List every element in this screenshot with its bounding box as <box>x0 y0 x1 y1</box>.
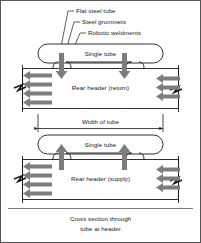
width-of-tube-label: Width of tube <box>38 119 163 125</box>
callout-label-flat-steel-tube: Flat steel tube <box>76 8 116 14</box>
figure-caption-line2: tube at header <box>0 226 201 232</box>
callout-label-robotic-weldments: Robotic weldments <box>88 30 141 36</box>
upper-tube-label: Single tube <box>38 51 163 57</box>
callout-label-steel-grommets: Steel grommets <box>82 19 126 25</box>
figure-cross-section-through-tube-at-header: Flat steel tube Steel grommets Robotic w… <box>0 0 201 243</box>
lower-header-label: Rear header (supply) <box>22 176 179 182</box>
lower-tube-label: Single tube <box>38 142 163 148</box>
figure-caption-line1: Cross section through <box>0 216 201 222</box>
upper-header-label: Rear header (return) <box>22 85 179 91</box>
